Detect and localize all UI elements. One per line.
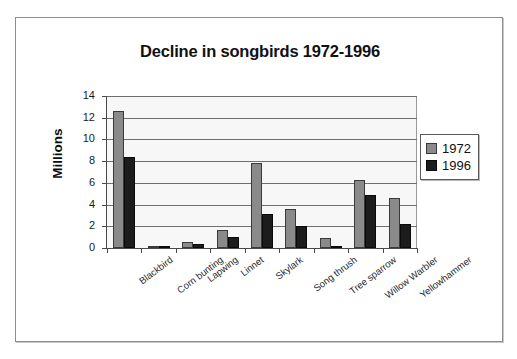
bar: [389, 198, 400, 248]
bar: [354, 180, 365, 248]
x-axis-tick: [417, 248, 418, 253]
legend-item: 1972: [426, 140, 471, 157]
y-axis-tick-label: 0: [55, 241, 95, 253]
x-axis-tick: [279, 248, 280, 253]
y-axis-tick-label: 2: [55, 219, 95, 231]
y-axis-tick-label: 14: [55, 89, 95, 101]
y-axis-tick-label: 6: [55, 176, 95, 188]
x-axis-category-label: Skylark: [273, 254, 305, 282]
bar-group: [217, 96, 239, 248]
bar-group: [113, 96, 135, 248]
legend-item: 1996: [426, 157, 471, 174]
bar: [193, 244, 204, 248]
x-axis-category-label: Blackbird: [137, 254, 175, 286]
x-axis-tick: [176, 248, 177, 253]
legend-swatch-1972-icon: [426, 143, 437, 154]
y-axis-tick: [102, 183, 107, 184]
x-axis-tick: [107, 248, 108, 253]
bar: [331, 246, 342, 248]
bar: [182, 242, 193, 249]
bar: [251, 163, 262, 248]
legend-label-1996: 1996: [442, 158, 471, 173]
chart-legend: 1972 1996: [420, 134, 479, 180]
y-axis-tick: [102, 139, 107, 140]
y-axis-tick-label: 8: [55, 154, 95, 166]
bar: [262, 214, 273, 248]
bar: [159, 246, 170, 248]
bar-group: [389, 96, 411, 248]
bar-group: [320, 96, 342, 248]
bar: [285, 209, 296, 248]
x-axis-category-label: Linnet: [238, 254, 265, 278]
bar-group: [182, 96, 204, 248]
x-axis-tick: [348, 248, 349, 253]
plot-area: 02468101214: [106, 96, 417, 249]
y-axis-tick-label: 12: [55, 111, 95, 123]
bar: [296, 226, 307, 248]
x-axis-tick: [314, 248, 315, 253]
bar: [400, 224, 411, 248]
bar: [124, 157, 135, 248]
bar-group: [251, 96, 273, 248]
x-axis-tick: [210, 248, 211, 253]
y-axis-tick: [102, 205, 107, 206]
bar: [113, 111, 124, 248]
bar: [365, 195, 376, 248]
bar-group: [285, 96, 307, 248]
legend-swatch-1996-icon: [426, 160, 437, 171]
chart-title: Decline in songbirds 1972-1996: [16, 42, 504, 61]
y-axis-tick: [102, 161, 107, 162]
bar-group: [354, 96, 376, 248]
bar: [148, 246, 159, 248]
x-axis-tick: [383, 248, 384, 253]
x-axis-tick: [245, 248, 246, 253]
y-axis-tick-label: 4: [55, 198, 95, 210]
y-axis-tick: [102, 118, 107, 119]
bar: [320, 238, 331, 248]
y-axis-tick-label: 10: [55, 132, 95, 144]
bar: [217, 230, 228, 248]
x-axis-tick: [141, 248, 142, 253]
bar-group: [148, 96, 170, 248]
y-axis-tick: [102, 226, 107, 227]
chart-frame: Decline in songbirds 1972-1996 Millions …: [15, 17, 503, 342]
bar: [228, 237, 239, 248]
legend-label-1972: 1972: [442, 141, 471, 156]
y-axis-tick: [102, 96, 107, 97]
